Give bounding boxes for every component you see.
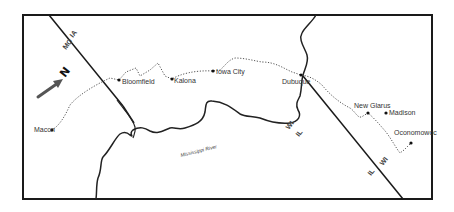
city-dot-bloomfield bbox=[117, 78, 120, 81]
border-wi-il bbox=[303, 76, 403, 199]
city-label-new-glarus: New Glarus bbox=[354, 102, 391, 109]
city-dot-madison bbox=[384, 111, 387, 114]
mississippi-river bbox=[96, 15, 316, 199]
city-label-madison: Madison bbox=[389, 109, 416, 116]
city-label-iowa-city: Iowa City bbox=[216, 68, 245, 76]
city-dot-iowa-city bbox=[211, 69, 214, 72]
city-label-dubuque: Dubuque bbox=[282, 78, 311, 86]
border-ia-mo bbox=[49, 15, 123, 106]
state-label-il-upper: IL bbox=[294, 128, 304, 138]
state-label-wi-lower: WI bbox=[378, 156, 389, 167]
state-label-wi-upper: WI bbox=[284, 120, 295, 131]
city-label-macon: Macon bbox=[34, 126, 55, 133]
city-dot-oconomowoc bbox=[409, 141, 412, 144]
city-label-kalona: Kalona bbox=[174, 77, 196, 84]
state-label-il-lower: IL bbox=[366, 167, 376, 177]
compass-n-label: N bbox=[57, 65, 73, 80]
city-dot-new-glarus bbox=[366, 111, 369, 114]
route-map: Macon Bloomfield Kalona Iowa City Dubuqu… bbox=[0, 0, 454, 212]
river-label: Mississippi River bbox=[180, 143, 218, 158]
city-label-bloomfield: Bloomfield bbox=[122, 78, 155, 85]
state-label-ia: IA bbox=[68, 29, 78, 39]
north-arrow-icon bbox=[38, 79, 63, 97]
city-label-oconomowoc: Oconomowoc bbox=[394, 129, 437, 136]
city-dot-dubuque bbox=[299, 73, 302, 76]
